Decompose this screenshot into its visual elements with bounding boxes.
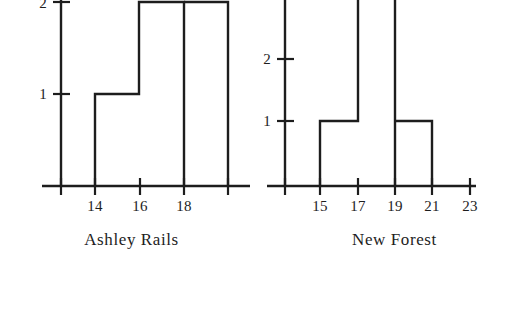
x-tick-label-14: 14 bbox=[87, 199, 102, 214]
ashley-rails-plot-area bbox=[0, 0, 263, 225]
chart-caption-ashley-rails: Ashley Rails bbox=[0, 230, 263, 250]
histogram-bar-19-21 bbox=[395, 121, 432, 186]
chart-panel-new-forest: 2 1 15 17 19 21 23 New Forest bbox=[263, 0, 526, 311]
x-tick-label-17: 17 bbox=[350, 199, 365, 214]
x-tick-label-21: 21 bbox=[424, 199, 439, 214]
x-tick-label-19: 19 bbox=[387, 199, 402, 214]
x-tick-label-16: 16 bbox=[132, 199, 147, 214]
x-tick-label-18: 18 bbox=[176, 199, 191, 214]
y-tick-label-1: 1 bbox=[39, 87, 47, 102]
x-tick-label-23: 23 bbox=[462, 199, 477, 214]
new-forest-plot-area bbox=[263, 0, 526, 225]
chart-caption-new-forest: New Forest bbox=[263, 230, 526, 250]
y-tick-label-1: 1 bbox=[263, 114, 271, 129]
histogram-bars-outline-left bbox=[95, 2, 184, 186]
histogram-bar-18-20 bbox=[184, 2, 228, 186]
y-tick-label-2: 2 bbox=[263, 52, 271, 67]
x-tick-label-15: 15 bbox=[312, 199, 327, 214]
chart-panel-ashley-rails: 2 1 14 16 18 Ashley Rails bbox=[0, 0, 263, 311]
y-tick-label-2: 2 bbox=[39, 0, 47, 11]
histogram-bar-15-17 bbox=[320, 0, 358, 186]
histogram-figure: 2 1 14 16 18 Ashley Rails bbox=[0, 0, 526, 311]
